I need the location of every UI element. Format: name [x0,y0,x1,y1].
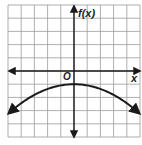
coordinate-graph: f(x) x O [0,0,142,145]
y-axis-label: f(x) [78,7,95,19]
origin-label: O [63,71,71,82]
x-axis-label: x [130,72,138,84]
axes [9,6,140,137]
